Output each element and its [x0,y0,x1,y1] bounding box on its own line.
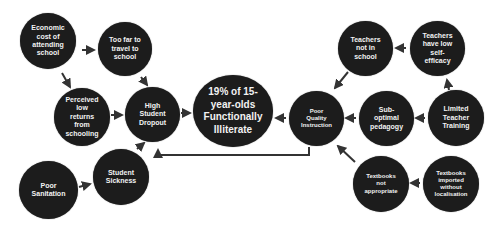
edge-textbooks-to-quality [338,146,355,162]
node-suboptimal-pedagogy: Sub- optimal pedagogy [359,91,414,146]
edge-notinschool-to-quality [335,72,348,88]
edge-sanitation-to-sickness [79,184,90,187]
edge-quality-to-dropout-bracket [158,147,309,155]
node-label: Sub- optimal pedagogy [370,106,403,131]
node-teachers-not-in-school: Teachers not in school [338,21,393,76]
node-label: Teachers have low self- efficacy [422,32,452,66]
node-textbooks-not-appropriate: Textbooks not appropriate [353,156,409,212]
node-student-sickness: Student Sickness [93,149,149,205]
node-label: Poor Quality Instruction [301,108,332,130]
node-label: 19% of 15- year-olds Functionally Illite… [204,86,263,136]
node-teachers-low-efficacy: Teachers have low self- efficacy [410,21,465,76]
node-label: Too far to travel to school [109,36,141,61]
edge-training-to-efficacy [447,80,449,90]
node-textbooks-imported: Textbooks imported without localisation [423,156,479,212]
node-label: Textbooks imported without localisation [434,170,467,199]
node-label: Poor Sanitation [32,182,66,199]
node-label: Economic cost of attending school [31,24,64,58]
node-poor-quality-instruction: Poor Quality Instruction [289,91,344,146]
edge-economic-to-perceived [62,73,70,87]
node-label: Limited Teacher Training [442,105,469,130]
edge-toofar-to-dropout [141,77,147,85]
edge-sickness-to-dropout [137,143,144,149]
node-high-dropout: High Student Dropout [125,87,180,142]
node-label: Teachers not in school [350,36,380,61]
node-poor-sanitation: Poor Sanitation [19,161,78,219]
node-too-far: Too far to travel to school [98,22,152,76]
node-label: Textbooks not appropriate [364,173,397,195]
node-limited-training: Limited Teacher Training [428,90,484,146]
node-economic-cost: Economic cost of attending school [20,13,76,69]
node-label: Perceived low returns from schooling [65,96,98,138]
node-perceived-low-returns: Perceived low returns from schooling [54,88,110,146]
node-functionally-illiterate: 19% of 15- year-olds Functionally Illite… [193,75,273,147]
node-label: Student Sickness [106,169,136,186]
node-label: High Student Dropout [139,102,166,127]
causal-diagram: Economic cost of attending school Too fa… [0,0,503,227]
